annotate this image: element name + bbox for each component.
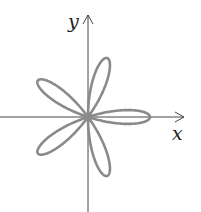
polar-diagram: y x [0, 0, 201, 212]
y-axis-label: y [67, 10, 79, 32]
x-axis-label: x [172, 122, 183, 144]
